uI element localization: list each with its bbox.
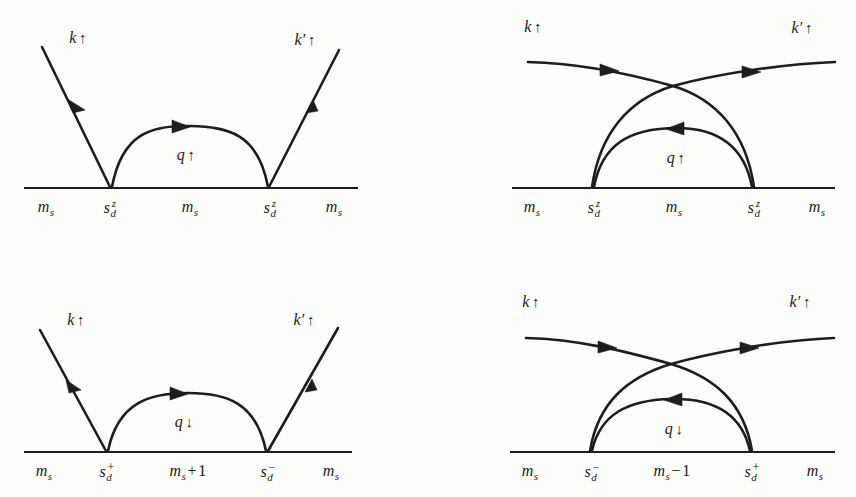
baseline-label-1: sd+ bbox=[100, 461, 115, 483]
baseline-label-3: sd+ bbox=[745, 461, 760, 483]
label-incoming-momentum: k↑ bbox=[522, 294, 540, 310]
baseline-label-3: sdz bbox=[748, 198, 761, 219]
baseline-label-0: ms bbox=[524, 199, 541, 218]
incoming-electron-line bbox=[526, 338, 752, 451]
baseline-label-4: ms bbox=[326, 199, 343, 218]
incoming-arrowhead-icon bbox=[600, 64, 619, 76]
label-outgoing-momentum: k′↑ bbox=[789, 294, 810, 310]
baseline-label-3: sdz bbox=[264, 198, 277, 219]
label-incoming-momentum: k↑ bbox=[524, 19, 542, 35]
label-propagator-momentum: q↓ bbox=[175, 414, 193, 430]
label-incoming-momentum: k↑ bbox=[69, 30, 87, 46]
outgoing-electron-line bbox=[269, 50, 339, 187]
diagram-bottom-left: k↑ k′↑ q↓ ms sd+ ms+1 sd− ms bbox=[0, 262, 400, 497]
label-propagator-momentum: q↓ bbox=[665, 421, 683, 437]
baseline-label-2: ms bbox=[666, 199, 683, 218]
baseline-label-0: ms bbox=[36, 463, 53, 482]
figure-canvas: k↑ k′↑ q↑ ms sdz ms sdz ms bbox=[0, 0, 856, 497]
incoming-arrowhead-icon bbox=[69, 100, 85, 113]
baseline-label-0: ms bbox=[38, 199, 55, 218]
propagator-arrowhead-icon bbox=[664, 393, 682, 406]
baseline-label-1: sdz bbox=[104, 198, 117, 219]
outgoing-arrowhead-icon bbox=[306, 100, 318, 113]
outgoing-electron-line bbox=[590, 338, 834, 451]
baseline-label-2: ms bbox=[182, 199, 199, 218]
propagator-arrowhead-icon bbox=[666, 122, 684, 135]
propagator-arrowhead-icon bbox=[172, 120, 190, 133]
outgoing-electron-line bbox=[268, 328, 338, 451]
propagator-arrowhead-icon bbox=[170, 387, 188, 400]
diagram-top-right: k↑ k′↑ q↑ ms sdz ms sdz ms bbox=[490, 0, 856, 240]
label-incoming-momentum: k↑ bbox=[67, 312, 85, 328]
baseline-label-2: ms+1 bbox=[169, 463, 206, 482]
baseline-label-4: ms bbox=[323, 463, 340, 482]
baseline-label-4: ms bbox=[809, 199, 826, 218]
outgoing-arrowhead-icon bbox=[740, 342, 759, 354]
baseline-label-0: ms bbox=[522, 463, 539, 482]
diagram-top-left: k↑ k′↑ q↑ ms sdz ms sdz ms bbox=[0, 0, 400, 240]
baseline-label-3: sd− bbox=[261, 461, 276, 483]
label-propagator-momentum: q↑ bbox=[177, 147, 195, 163]
diagram-bottom-right: k↑ k′↑ q↓ ms sd− ms−1 sd+ ms bbox=[490, 262, 856, 497]
incoming-electron-line bbox=[528, 62, 754, 187]
label-outgoing-momentum: k′↑ bbox=[791, 20, 812, 36]
baseline-label-1: sdz bbox=[588, 198, 601, 219]
outgoing-electron-line bbox=[592, 62, 835, 187]
baseline-label-2: ms−1 bbox=[653, 463, 690, 482]
label-outgoing-momentum: k′↑ bbox=[294, 32, 315, 48]
baseline-label-1: sd− bbox=[585, 461, 600, 483]
incoming-arrowhead-icon bbox=[66, 380, 81, 393]
label-propagator-momentum: q↑ bbox=[667, 150, 685, 166]
incoming-electron-line bbox=[42, 47, 110, 187]
baseline-label-4: ms bbox=[807, 463, 824, 482]
label-outgoing-momentum: k′↑ bbox=[293, 312, 314, 328]
incoming-arrowhead-icon bbox=[598, 341, 617, 353]
